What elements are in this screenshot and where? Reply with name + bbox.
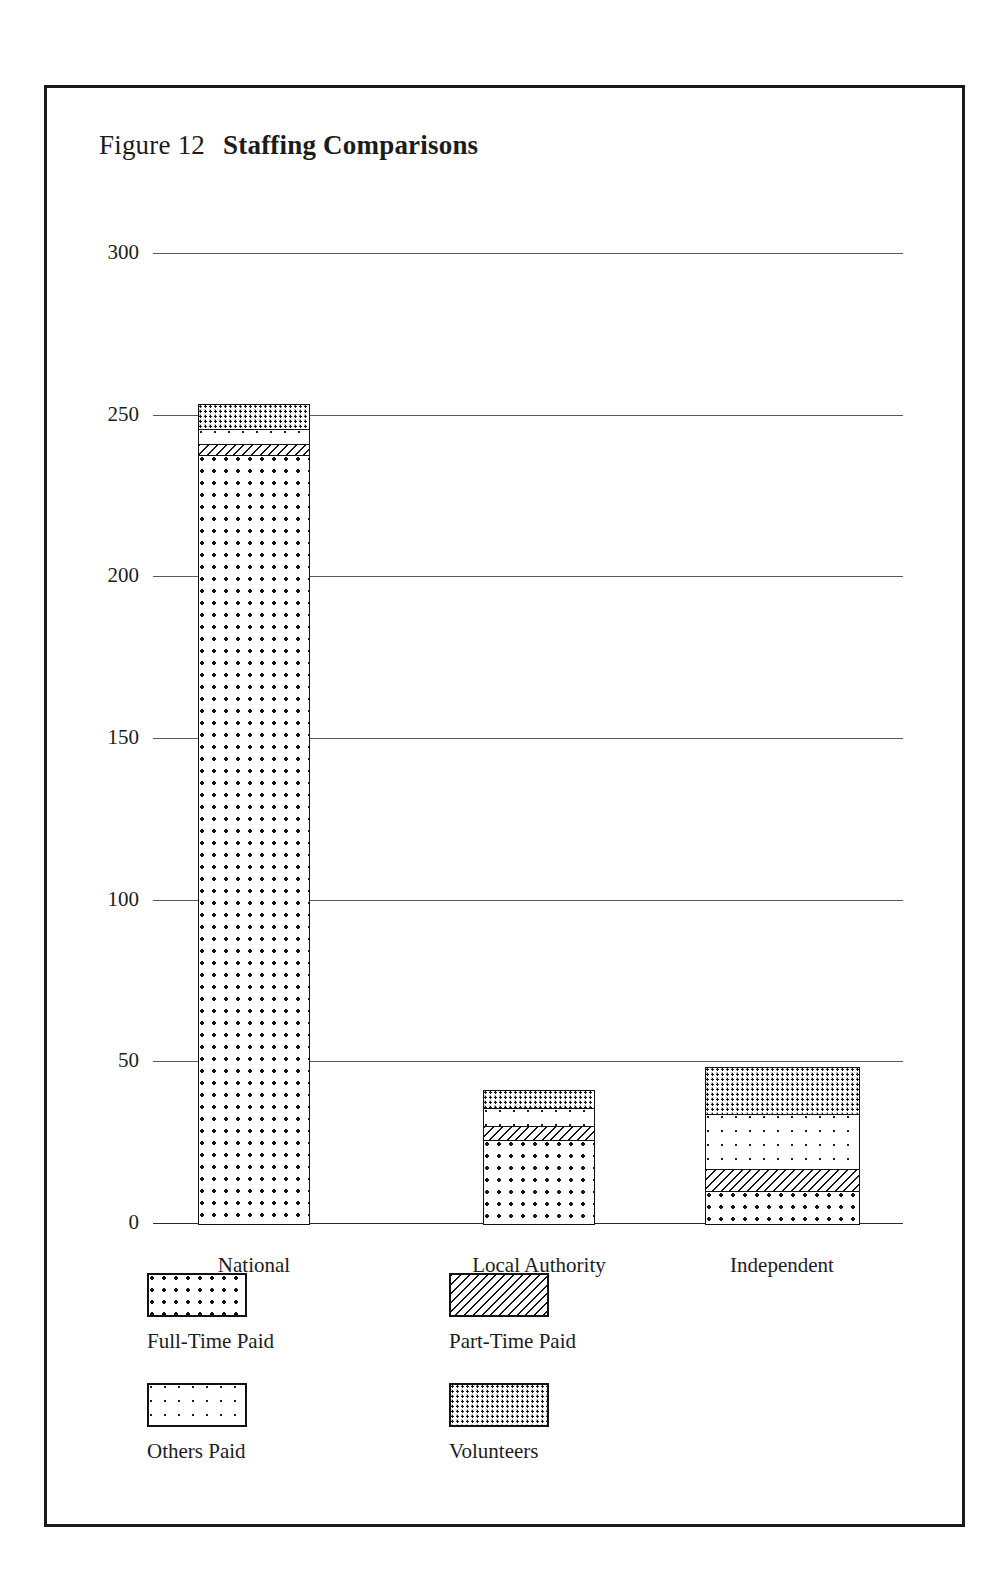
legend-row-1: Full-Time Paid Part-Time Paid (147, 1273, 667, 1383)
legend-label-part-time-paid: Part-Time Paid (449, 1329, 576, 1354)
plot-area: 300 250 200 150 100 50 0 National Local … (153, 253, 903, 1223)
figure-number: Figure 12 (99, 130, 205, 160)
legend-label-volunteers: Volunteers (449, 1439, 549, 1464)
ytick-label-150: 150 (108, 725, 140, 750)
bar-segment-full-time-paid[interactable] (198, 455, 310, 1225)
bar-national[interactable] (198, 399, 310, 1224)
legend-item-full-time-paid[interactable]: Full-Time Paid (147, 1273, 274, 1354)
bar-segment-full-time-paid[interactable] (705, 1191, 860, 1225)
legend-swatch-full-time-paid (147, 1273, 247, 1317)
ytick-label-200: 200 (108, 563, 140, 588)
legend-label-full-time-paid: Full-Time Paid (147, 1329, 274, 1354)
legend-row-2: Others Paid Volunteers (147, 1383, 667, 1493)
legend-swatch-volunteers (449, 1383, 549, 1427)
bar-segment-volunteers[interactable] (483, 1090, 595, 1109)
legend-item-others-paid[interactable]: Others Paid (147, 1383, 247, 1464)
legend-swatch-others-paid (147, 1383, 247, 1427)
ytick-label-100: 100 (108, 887, 140, 912)
bar-segment-others-paid[interactable] (483, 1108, 595, 1127)
legend-item-part-time-paid[interactable]: Part-Time Paid (449, 1273, 576, 1354)
legend-swatch-part-time-paid (449, 1273, 549, 1317)
ytick-label-0: 0 (129, 1210, 140, 1235)
bar-segment-volunteers[interactable] (198, 404, 310, 430)
legend-label-others-paid: Others Paid (147, 1439, 247, 1464)
figure-frame: Figure 12Staffing Comparisons 300 250 20… (44, 85, 965, 1527)
bar-independent[interactable] (705, 1061, 860, 1223)
legend-item-volunteers[interactable]: Volunteers (449, 1383, 549, 1464)
chart-legend: Full-Time Paid Part-Time Paid Others Pai… (147, 1273, 667, 1493)
gridline-300 (153, 253, 903, 254)
bar-segment-full-time-paid[interactable] (483, 1140, 595, 1224)
ytick-label-250: 250 (108, 402, 140, 427)
bar-segment-part-time-paid[interactable] (705, 1169, 860, 1192)
bar-segment-volunteers[interactable] (705, 1067, 860, 1116)
xtick-label-independent: Independent (730, 1253, 834, 1278)
bar-segment-others-paid[interactable] (705, 1114, 860, 1171)
figure-title-text: Staffing Comparisons (223, 130, 478, 160)
ytick-label-300: 300 (108, 240, 140, 265)
figure-title: Figure 12Staffing Comparisons (99, 130, 478, 161)
bar-local-authority[interactable] (483, 1084, 595, 1223)
ytick-label-50: 50 (118, 1048, 139, 1073)
